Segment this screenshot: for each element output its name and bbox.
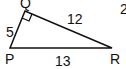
side-label-qr: 12 <box>67 12 83 26</box>
side-label-pq: 5 <box>6 25 14 39</box>
triangle-pqr <box>10 11 112 48</box>
vertex-label-r: R <box>110 52 120 66</box>
vertex-label-p: P <box>5 52 14 66</box>
corner-glyph: 2 <box>120 2 126 16</box>
vertex-label-q: Q <box>20 0 31 10</box>
side-label-pr: 13 <box>55 54 71 68</box>
